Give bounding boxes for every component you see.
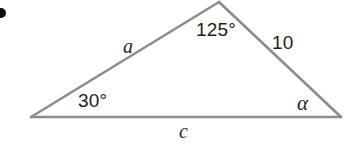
angle-label-left: 30°	[78, 91, 107, 110]
angle-label-alpha: α	[297, 93, 308, 114]
side-label-a: a	[123, 36, 133, 56]
triangle-side-a-line	[31, 2, 219, 117]
side-label-c: c	[179, 121, 188, 141]
angle-label-apex: 125°	[196, 20, 236, 39]
triangle-side-10-line	[219, 2, 341, 117]
side-length-label-right: 10	[272, 33, 294, 52]
triangle-figure: 125° 10 a 30° α c	[0, 0, 360, 145]
